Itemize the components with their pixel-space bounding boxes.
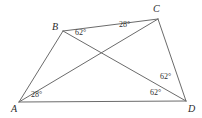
diagonal-BD [63,31,186,101]
geometry-figure: A B C D 62° 28° 28° 62° 62° [0,0,202,118]
figure-canvas [0,0,202,118]
vertex-label-B: B [52,22,58,32]
angle-label-at-B: 62° [75,29,86,37]
angle-label-at-D-lower: 62° [150,89,161,97]
vertex-label-C: C [153,4,160,14]
side-CD [158,19,186,101]
side-AD [19,101,186,102]
angle-label-at-C: 28° [119,21,130,29]
vertex-label-D: D [188,104,195,114]
angle-label-at-D-upper: 62° [160,73,171,81]
vertex-label-A: A [11,104,17,114]
angle-label-at-A: 28° [31,91,42,99]
